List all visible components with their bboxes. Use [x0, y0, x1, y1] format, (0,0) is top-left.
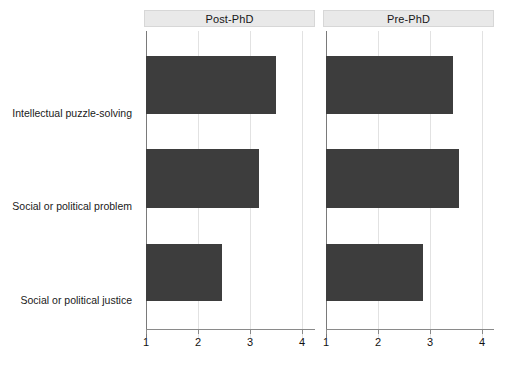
bar-post-phd-social-or-political-justice	[146, 244, 222, 301]
x-tick-label-3-post-phd: 3	[247, 336, 253, 348]
x-tick-1-pre-phd	[326, 330, 327, 334]
gridline-x-4	[482, 31, 483, 338]
panel-strip-post-phd: Post-PhD	[144, 10, 315, 27]
x-tick-2-post-phd	[198, 330, 199, 334]
x-tick-label-4-pre-phd: 4	[479, 336, 485, 348]
x-axis-line-post-phd	[146, 329, 315, 330]
x-tick-4-pre-phd	[482, 330, 483, 334]
x-tick-label-4-post-phd: 4	[299, 336, 305, 348]
x-tick-label-1-post-phd: 1	[143, 336, 149, 348]
y-axis-label-2: Social or political justice	[21, 294, 132, 306]
x-tick-2-pre-phd	[378, 330, 379, 334]
x-tick-4-post-phd	[302, 330, 303, 334]
x-tick-label-3-pre-phd: 3	[427, 336, 433, 348]
x-tick-1-post-phd	[146, 330, 147, 334]
x-tick-3-pre-phd	[430, 330, 431, 334]
panel-strip-pre-phd: Pre-PhD	[323, 10, 494, 27]
plot-area-post-phd: 1 2 3 4	[144, 31, 315, 338]
y-axis-category-labels: Intellectual puzzle-solving Social or po…	[0, 28, 138, 328]
x-tick-label-1-pre-phd: 1	[323, 336, 329, 348]
bar-chart-figure: Intellectual puzzle-solving Social or po…	[0, 0, 506, 377]
x-tick-label-2-post-phd: 2	[195, 336, 201, 348]
x-tick-label-2-pre-phd: 2	[375, 336, 381, 348]
panel-title-post-phd: Post-PhD	[206, 13, 254, 25]
x-axis-line-pre-phd	[326, 329, 494, 330]
bar-pre-phd-social-or-political-problem	[326, 149, 459, 208]
bar-post-phd-social-or-political-problem	[146, 149, 259, 208]
x-tick-3-post-phd	[250, 330, 251, 334]
gridline-x-4	[302, 31, 303, 338]
plot-area-pre-phd: 1 2 3 4	[323, 31, 494, 338]
bar-post-phd-intellectual-puzzle-solving	[146, 56, 276, 114]
y-axis-label-0: Intellectual puzzle-solving	[12, 107, 132, 119]
y-axis-label-1: Social or political problem	[12, 200, 132, 212]
panel-title-pre-phd: Pre-PhD	[387, 13, 430, 25]
bar-pre-phd-social-or-political-justice	[326, 244, 423, 301]
bar-pre-phd-intellectual-puzzle-solving	[326, 56, 453, 114]
